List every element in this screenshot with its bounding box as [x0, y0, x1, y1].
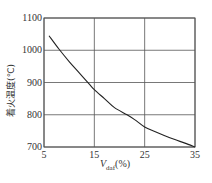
grid-lines: [44, 18, 195, 147]
x-axis-label: Vdaf(%): [100, 158, 130, 172]
data-line: [49, 36, 195, 147]
chart-canvas: 5152535 70080090010001100: [0, 0, 212, 183]
y-tick-label: 700: [27, 141, 42, 152]
x-tick-label: 25: [140, 149, 150, 160]
y-axis-label-text: 着火温度(℃): [5, 63, 18, 116]
x-tick-label: 5: [42, 149, 47, 160]
y-axis-ticks: 70080090010001100: [22, 12, 42, 152]
y-axis-label: 着火温度(℃): [4, 55, 18, 125]
y-tick-label: 900: [27, 77, 42, 88]
y-tick-label: 1100: [22, 12, 42, 23]
x-tick-label: 15: [89, 149, 99, 160]
y-tick-label: 800: [27, 109, 42, 120]
x-tick-label: 35: [190, 149, 200, 160]
x-axis-label-unit: (%): [115, 158, 130, 169]
y-tick-label: 1000: [22, 44, 42, 55]
x-axis-label-sub: daf: [106, 164, 115, 172]
